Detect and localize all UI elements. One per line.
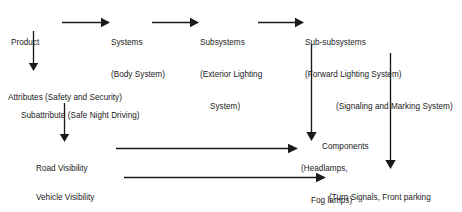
node-vehicle-visibility-label: Vehicle Visibility [36,193,94,204]
node-subsystems-line3: System) [200,102,262,113]
node-sub-subsystems-line3: (Signaling and Marking System) [305,102,453,113]
node-subsystems-line1: Subsystems [200,38,262,49]
diagram-canvas: Product Systems (Body System) Subsystems… [0,0,462,212]
node-product: Product [11,17,39,70]
node-subsystems: Subsystems (Exterior Lighting System) [200,17,262,134]
node-product-label: Product [11,38,39,49]
arrow-vehicle-visibility-to-signals [124,173,326,182]
node-sub-subsystems-line2: (Forward Lighting System) [305,70,453,81]
node-signal-components-line1: (Turn Signals, Front parking [329,193,435,204]
node-subattribute-label: Subattribute (Safe Night Driving) [21,111,140,122]
arrow-subsystems-to-sub-subsystems [258,18,304,27]
node-sub-subsystems-line1: Sub-subsystems [305,38,453,49]
node-signal-components: (Turn Signals, Front parking and Tail La… [329,172,435,212]
node-subsystems-line2: (Exterior Lighting [200,70,262,81]
node-systems-line1: Systems [111,38,165,49]
arrow-product-to-systems [62,18,110,27]
node-vehicle-visibility: Vehicle Visibility [36,172,94,212]
node-sub-subsystems: Sub-subsystems (Forward Lighting System)… [305,17,453,134]
arrow-road-visibility-to-headlamps [116,144,298,153]
node-subattribute: Subattribute (Safe Night Driving) [21,90,140,143]
